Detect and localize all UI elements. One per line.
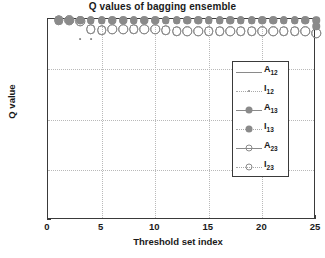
data-point [54,15,64,25]
data-point [98,16,106,24]
data-point [226,16,234,24]
data-point [258,26,268,36]
legend-label: I12 [264,83,274,95]
legend-label: A23 [264,140,278,152]
data-point [237,16,245,24]
data-point [172,26,182,36]
data-point [173,16,181,24]
legend-marker [246,164,253,171]
data-point [129,24,139,34]
data-point [183,26,193,36]
chart-legend: A12I12A13I13A23I23 [232,61,289,177]
data-point [225,26,235,36]
data-point [259,16,267,24]
x-tick-label: 15 [193,221,223,232]
data-point [279,26,289,36]
legend-item-i23[interactable]: I23 [233,158,290,177]
legend-item-a23[interactable]: A23 [233,139,290,158]
data-point [90,38,92,40]
data-point [161,25,171,35]
data-point [269,16,277,24]
data-point [291,16,299,24]
data-point [302,16,310,24]
chart-figure: Q values of bagging ensemble Q value Thr… [0,0,325,258]
data-point [204,26,214,36]
legend-marker [246,126,253,133]
data-point [141,16,149,24]
data-point [79,38,81,40]
data-point [151,16,159,24]
legend-marker-icon [236,63,262,82]
grid-line-vertical [102,19,103,218]
x-tick-mark [315,215,316,219]
x-tick-label: 20 [246,221,276,232]
data-point [130,16,138,24]
legend-marker-icon [236,82,262,101]
data-point [236,26,246,36]
legend-label: I13 [264,121,274,133]
data-point [311,28,321,38]
legend-marker-icon [236,158,262,177]
data-point [205,16,213,24]
legend-marker [248,90,250,92]
data-point [87,16,95,24]
data-point [268,26,278,36]
x-tick-label: 5 [86,221,116,232]
data-point [193,26,203,36]
y-tick-mark [47,219,51,220]
data-point [140,24,150,34]
legend-label: A12 [264,64,278,76]
legend-marker-icon [236,101,262,120]
legend-line [236,72,262,73]
data-point [108,24,118,34]
data-point [97,25,107,35]
legend-label: A13 [264,102,278,114]
x-tick-label: 25 [300,221,325,232]
x-tick-label: 10 [139,221,169,232]
data-point [280,16,288,24]
data-point [215,26,225,36]
legend-item-i13[interactable]: I13 [233,120,290,139]
grid-line-vertical [155,19,156,218]
data-point [65,15,75,25]
data-point [247,26,257,36]
data-point [150,24,160,34]
legend-label: I23 [264,159,274,171]
data-point [118,24,128,34]
data-point [75,16,85,26]
data-point [194,16,202,24]
legend-item-i12[interactable]: I12 [233,82,290,101]
data-point [119,16,127,24]
x-tick-label: 0 [32,221,62,232]
data-point [184,16,192,24]
legend-item-a12[interactable]: A12 [233,63,290,82]
grid-line-vertical [209,19,210,218]
chart-title: Q values of bagging ensemble [0,1,325,12]
data-point [86,24,96,34]
legend-marker [246,107,253,114]
legend-marker-icon [236,139,262,158]
x-axis-label: Threshold set index [40,236,316,247]
data-point [162,16,170,24]
data-point [248,16,256,24]
data-point [301,26,311,36]
data-point [109,16,117,24]
data-point [290,26,300,36]
y-axis-label: Q value [6,67,17,137]
legend-marker-icon [236,120,262,139]
legend-marker [246,145,253,152]
data-point [216,16,224,24]
legend-item-a13[interactable]: A13 [233,101,290,120]
